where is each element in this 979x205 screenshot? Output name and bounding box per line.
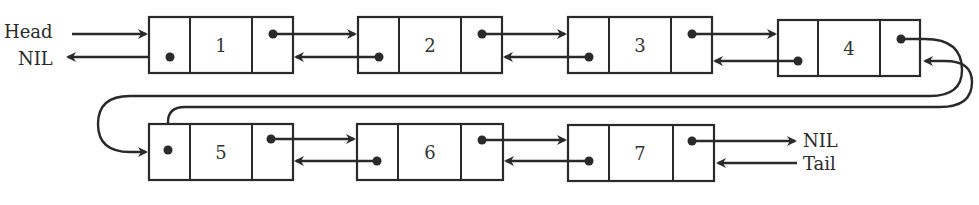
- node-6: 6: [357, 124, 503, 180]
- head-label: Head: [4, 21, 53, 42]
- node-value: 3: [634, 35, 645, 56]
- node-4: 4: [778, 20, 920, 76]
- linked-list-diagram: Head NIL 1 2 3 4 5: [0, 0, 979, 205]
- node-2: 2: [358, 17, 502, 73]
- node-value: 4: [843, 38, 854, 59]
- node-value: 5: [215, 142, 226, 163]
- node-5: 5: [149, 124, 293, 180]
- node-1: 1: [149, 17, 293, 73]
- node-value: 1: [215, 35, 226, 56]
- tail-nil-label: NIL: [803, 130, 838, 151]
- node-value: 7: [634, 143, 645, 164]
- node-3: 3: [568, 17, 712, 73]
- node-value: 2: [424, 35, 435, 56]
- head-nil-label: NIL: [18, 48, 53, 69]
- tail-label: Tail: [803, 153, 836, 174]
- node-value: 6: [424, 142, 435, 163]
- node-7: 7: [568, 125, 714, 181]
